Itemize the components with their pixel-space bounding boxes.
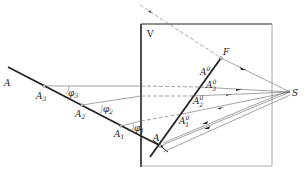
- label-A2: A2: [74, 109, 86, 120]
- label-F: F: [222, 47, 230, 57]
- label-A3: A3: [35, 91, 47, 102]
- label-A0-3: A03: [205, 78, 217, 92]
- perspective-projection-diagram: V: [0, 0, 307, 172]
- arrow-icon: [148, 10, 152, 13]
- label-phi1: φ1: [134, 123, 144, 134]
- label-S: S: [292, 88, 298, 98]
- ray-F-S: [221, 58, 290, 92]
- arrow-icon: [240, 67, 246, 70]
- label-phi2: φ2: [103, 104, 113, 115]
- label-A-image: A: [152, 133, 160, 143]
- plane-label: V: [146, 29, 154, 39]
- label-A: A: [3, 78, 11, 88]
- label-A0-2: A02: [192, 94, 204, 108]
- label-A1: A1: [113, 129, 124, 140]
- label-phi3: φ3: [68, 88, 78, 99]
- label-A0-1: A01: [178, 114, 190, 128]
